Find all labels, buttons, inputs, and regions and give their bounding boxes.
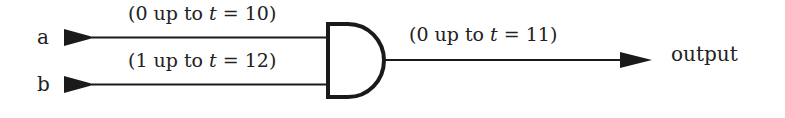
- input-a-annotation: (0 up to t = 10): [128, 2, 276, 24]
- input-b-label: b: [37, 72, 50, 96]
- input-b-annotation: (1 up to t = 12): [128, 49, 276, 71]
- input-a-arrow-icon: [64, 29, 95, 46]
- output-label: output: [671, 42, 738, 66]
- and-gate-diagram: a (0 up to t = 10) b (1 up to t = 12) (0…: [0, 0, 785, 118]
- input-b-arrow-icon: [64, 76, 95, 93]
- output-arrow-icon: [620, 52, 652, 68]
- output-annotation: (0 up to t = 11): [409, 23, 557, 45]
- input-a-label: a: [37, 25, 49, 49]
- and-gate-icon: [328, 24, 384, 97]
